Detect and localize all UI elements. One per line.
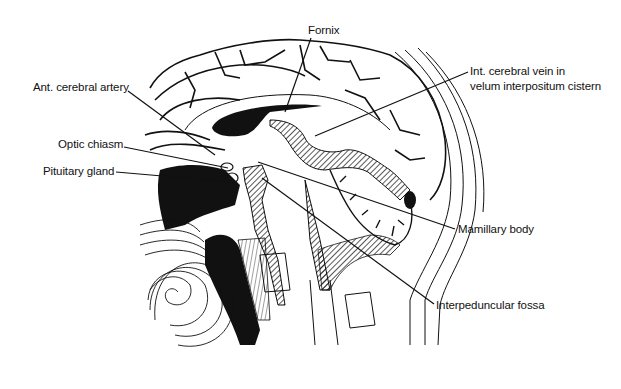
label-optic-chiasm: Optic chiasm	[58, 137, 123, 151]
label-mamillary-body: Mamillary body	[458, 222, 534, 236]
leader-optic-chiasm	[124, 147, 228, 168]
lateral-ventricle	[212, 105, 322, 137]
label-int-cerebral-vein-line1: Int. cerebral vein in	[470, 64, 565, 78]
mamillary-dark	[404, 191, 416, 209]
leader-fornix	[285, 38, 311, 112]
third-ventricle-hatched	[270, 120, 410, 200]
brain-sagittal-drawing	[0, 0, 621, 389]
label-fornix: Fornix	[308, 23, 339, 37]
label-interpeduncular-fossa: Interpeduncular fossa	[436, 298, 545, 312]
label-ant-cerebral-artery: Ant. cerebral artery	[33, 80, 129, 94]
anatomy-diagram: Fornix Int. cerebral vein in velum inter…	[0, 0, 621, 389]
label-int-cerebral-vein-line2: velum interpositum cistern	[470, 79, 601, 93]
vertebra-2	[345, 292, 375, 328]
label-pituitary-gland: Pituitary gland	[43, 164, 114, 178]
leader-ant-cerebral-artery	[128, 91, 215, 155]
